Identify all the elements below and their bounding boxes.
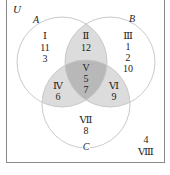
- region-vii-value: 8: [84, 125, 89, 136]
- region-iii-value: 10: [123, 63, 133, 74]
- region-viii-value: 4: [144, 134, 149, 145]
- region-ii-value: 12: [81, 42, 91, 53]
- region-v-numeral: V: [82, 62, 90, 73]
- set-a-label: A: [32, 14, 40, 25]
- region-vi-value: 9: [112, 91, 117, 102]
- region-i-value: 3: [43, 53, 48, 64]
- region-v-value: 5: [84, 73, 89, 84]
- region-iii-value: 2: [126, 52, 131, 63]
- region-v-value: 7: [84, 84, 89, 95]
- set-b-label: B: [129, 13, 135, 24]
- universe-label: U: [13, 3, 22, 15]
- region-viii-numeral: Ⅷ: [137, 146, 154, 157]
- region-iv-numeral: Ⅳ: [53, 80, 64, 91]
- region-ii-numeral: Ⅱ: [83, 30, 90, 41]
- region-i-numeral: Ⅰ: [43, 30, 47, 41]
- region-iii-numeral: Ⅲ: [123, 30, 133, 41]
- set-c-label: C: [83, 141, 90, 152]
- region-iii-value: 1: [126, 41, 131, 52]
- region-i-value: 11: [40, 42, 50, 53]
- region-vi-numeral: Ⅵ: [108, 80, 119, 91]
- region-iv-value: 6: [56, 91, 61, 102]
- region-vii-numeral: Ⅶ: [79, 114, 93, 125]
- venn-diagram: U A B C Ⅰ 11 3 Ⅱ 12 Ⅲ 1 2 10 Ⅳ 6 V 5 7 Ⅵ…: [0, 0, 170, 175]
